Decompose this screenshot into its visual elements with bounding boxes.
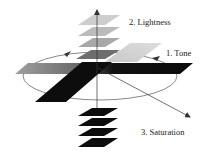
lightness-planes-below — [78, 108, 118, 147]
label-lightness: 2. Lightness — [129, 17, 171, 27]
lightness-plane-1 — [78, 15, 120, 25]
label-tone: 1. Tone — [166, 48, 191, 58]
label-saturation: 3. Saturation — [141, 127, 185, 137]
color-space-diagram: 2. Lightness 1. Tone 3. Saturation — [0, 0, 222, 158]
lightness-plane-3 — [78, 38, 120, 47]
dark-plane-3 — [78, 128, 118, 136]
lightness-plane-2 — [78, 27, 120, 36]
dark-plane-4 — [78, 138, 118, 147]
dark-plane-1 — [78, 108, 118, 116]
dark-plane-2 — [78, 118, 118, 126]
